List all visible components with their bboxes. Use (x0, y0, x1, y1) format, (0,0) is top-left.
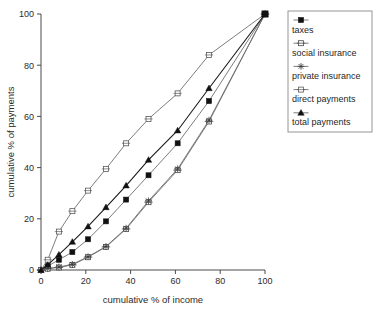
convergence-point (262, 11, 268, 17)
x-tick-label: 20 (81, 276, 91, 286)
marker-filled-square (56, 257, 61, 262)
marker-filled-square (175, 141, 180, 146)
x-tick-label: 80 (215, 276, 225, 286)
marker-filled-square (103, 219, 108, 224)
x-tick-label: 60 (170, 276, 180, 286)
y-tick-label: 60 (24, 112, 34, 122)
x-axis-title: cumulative % of income (103, 294, 203, 305)
series-line (41, 14, 265, 270)
lorenz-curve-figure: 020406080100020406080100cumulative % of … (0, 0, 376, 309)
series-social-insurance (37, 12, 270, 273)
y-tick-label: 100 (19, 9, 34, 19)
legend: taxessocial insuranceprivate insurancedi… (288, 11, 372, 132)
series-taxes (39, 12, 268, 273)
y-tick-label: 80 (24, 61, 34, 71)
x-tick-label: 0 (38, 276, 43, 286)
series-line (41, 14, 265, 270)
marker-filled-square (70, 250, 75, 255)
y-tick-label: 0 (29, 265, 34, 275)
legend-item-label: social insurance (292, 48, 357, 58)
legend-item-label: total payments (292, 117, 351, 127)
marker-filled-square (124, 197, 129, 202)
legend-item-label: private insurance (292, 71, 361, 81)
marker-filled-square (207, 99, 212, 104)
series-line (41, 14, 265, 270)
y-tick-label: 40 (24, 163, 34, 173)
y-tick-label: 20 (24, 214, 34, 224)
marker-filled-square (262, 11, 268, 17)
legend-item-label: taxes (292, 25, 314, 35)
marker-filled-square (146, 173, 151, 178)
series-total-payments (38, 11, 268, 273)
x-tick-label: 40 (126, 276, 136, 286)
legend-item-label: direct payments (292, 94, 356, 104)
series-line (41, 14, 265, 270)
series-line (41, 14, 265, 270)
marker-filled-square (299, 18, 304, 23)
series-private-insurance (38, 11, 269, 274)
chart-canvas: 020406080100020406080100cumulative % of … (0, 0, 376, 309)
x-tick-label: 100 (257, 276, 272, 286)
series-direct-payments (37, 12, 269, 273)
marker-filled-square (86, 237, 91, 242)
y-axis-title: cumulative % of payments (5, 86, 16, 197)
